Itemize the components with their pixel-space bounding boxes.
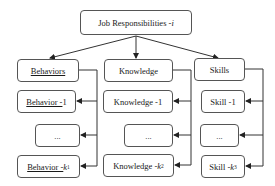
item-subscript: 3 — [234, 164, 237, 170]
behaviors-bracket — [79, 70, 97, 166]
arrow-root-to-skills — [136, 36, 218, 58]
item-box-behavior-1: Behavior - 1 — [17, 90, 76, 113]
item-box-skill-1: Skill - 1 — [201, 90, 245, 113]
category-box-knowledge: Knowledge — [104, 59, 173, 82]
root-var: i — [171, 18, 173, 28]
category-title: Skills — [210, 65, 229, 75]
root-label: Job Responsibilities - — [98, 18, 171, 28]
item-label: ... — [216, 131, 222, 141]
item-box-behavior-ellipsis: ... — [35, 124, 80, 147]
skills-bracket — [245, 69, 263, 166]
item-label: Behavior - — [27, 162, 63, 172]
item-suffix: 1 — [158, 97, 162, 107]
item-box-knowledge-1: Knowledge - 1 — [103, 90, 173, 113]
item-box-behavior-k1: Behavior - k1 — [17, 155, 80, 178]
item-box-skill-ellipsis: ... — [200, 124, 239, 147]
root-box-job-responsibilities: Job Responsibilities - i — [80, 10, 192, 35]
item-box-skill-k3: Skill - k3 — [201, 155, 245, 178]
category-title: Behaviors — [31, 66, 65, 76]
item-label: Knowledge - — [113, 161, 157, 171]
knowledge-bracket — [173, 70, 191, 165]
item-label: ... — [145, 131, 151, 141]
item-label: ... — [54, 131, 60, 141]
item-label: Skill - — [210, 97, 231, 107]
category-box-skills: Skills — [194, 58, 245, 81]
item-subscript: 2 — [161, 163, 164, 169]
item-label: Knowledge - — [114, 97, 158, 107]
item-suffix: 1 — [231, 97, 235, 107]
arrow-root-to-behaviors — [50, 36, 136, 58]
category-box-behaviors: Behaviors — [17, 59, 79, 82]
item-subscript: 1 — [67, 164, 70, 170]
item-suffix: 1 — [62, 97, 66, 107]
item-label: Skill - — [209, 162, 230, 172]
item-label: Behavior - — [26, 97, 62, 107]
item-box-knowledge-ellipsis: ... — [124, 124, 173, 147]
item-box-knowledge-k2: Knowledge - k2 — [103, 154, 174, 177]
category-title: Knowledge — [119, 66, 158, 76]
